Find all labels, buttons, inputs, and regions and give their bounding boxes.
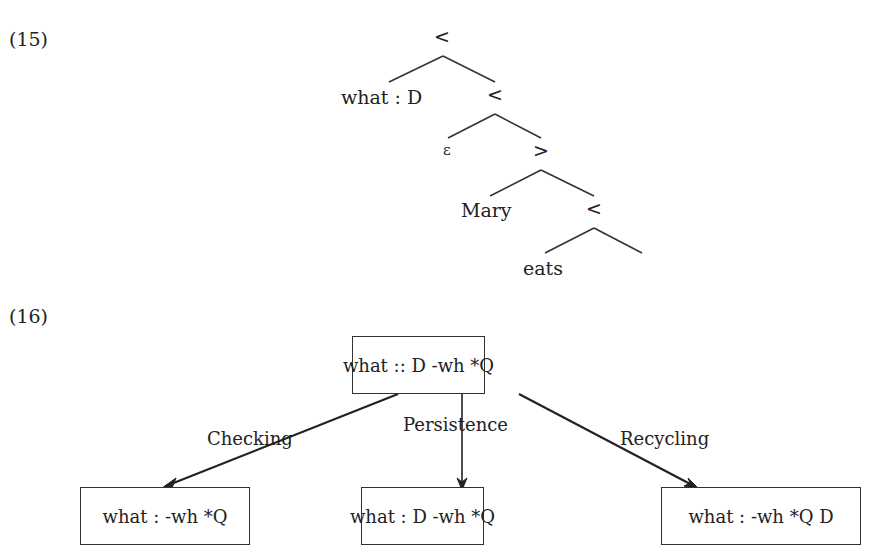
example-16-number: (16) — [9, 305, 48, 327]
tree-node-gt: > — [533, 141, 549, 160]
tree-node-eats: eats — [523, 259, 563, 278]
recycling-result-box: what : -wh *Q D — [661, 487, 861, 545]
edge-label-persistence: Persistence — [403, 414, 508, 435]
edge-label-recycling: Recycling — [620, 428, 709, 449]
tree-node-lt-3: < — [586, 199, 602, 218]
tree-root-node: < — [434, 27, 450, 46]
tree-node-lt-2: < — [487, 85, 503, 104]
tree-edges — [0, 0, 872, 546]
edge-label-checking: Checking — [207, 428, 293, 449]
tree-node-what-d: what : D — [341, 88, 422, 107]
checking-result-box: what : -wh *Q — [80, 487, 250, 545]
tree-node-mary: Mary — [461, 201, 512, 220]
tree-node-epsilon: ε — [443, 143, 451, 158]
top-box: what :: D -wh *Q — [352, 336, 485, 394]
persistence-result-box: what : D -wh *Q — [361, 487, 484, 545]
